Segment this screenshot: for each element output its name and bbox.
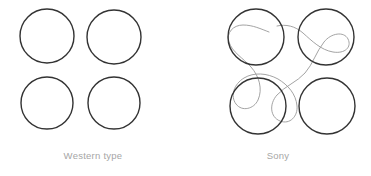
- western-top-right-circle: [87, 10, 141, 64]
- panel-western-type: Western type: [0, 0, 186, 176]
- western-type-diagram: [0, 0, 186, 140]
- sony-top-right-circle: [298, 9, 354, 65]
- sony-interconnect-thread: [228, 25, 349, 122]
- sony-caption: Sony: [185, 150, 371, 162]
- panel-sony: Sony: [185, 0, 371, 176]
- western-bottom-left-circle: [21, 77, 73, 129]
- figure-root: Western type Sony: [0, 0, 371, 176]
- sony-top-left-circle: [228, 9, 284, 65]
- sony-bottom-right-circle: [299, 78, 355, 134]
- sony-diagram: [185, 0, 371, 140]
- western-bottom-right-circle: [88, 77, 140, 129]
- western-top-left-circle: [20, 9, 74, 63]
- western-type-caption: Western type: [0, 150, 186, 162]
